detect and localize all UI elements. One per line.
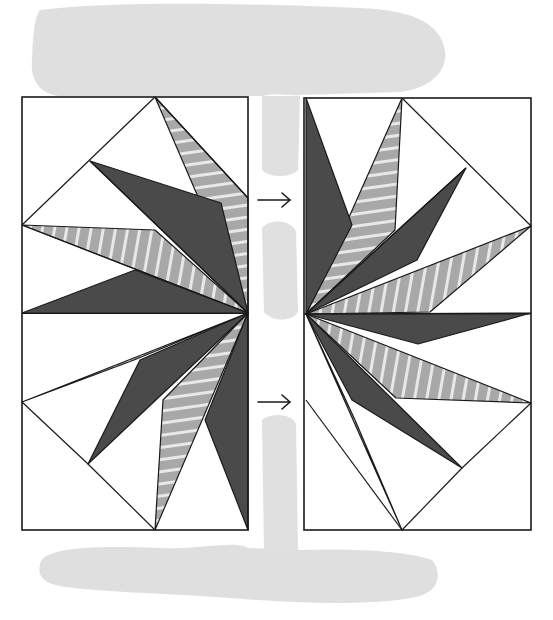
left-quilt-panel: [22, 97, 248, 530]
arrow-right-icon: [258, 395, 290, 409]
wash-gap-mid: [262, 222, 298, 320]
wash-gap-top: [262, 96, 300, 176]
quilt-block-diagram: [0, 0, 553, 620]
wash-top: [32, 4, 446, 96]
wash-bottom: [39, 545, 438, 603]
arrow-right-icon: [258, 193, 290, 207]
right-quilt-panel: [304, 98, 531, 530]
wash-gap-low: [262, 415, 298, 550]
